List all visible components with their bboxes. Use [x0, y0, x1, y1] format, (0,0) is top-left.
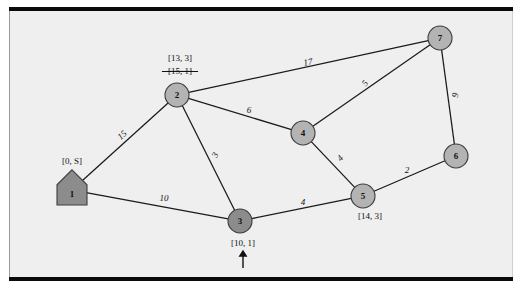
edge-weight-4-5: 4	[335, 153, 346, 163]
pointer-layer	[240, 251, 246, 268]
edge-4-5	[311, 142, 354, 188]
graph-canvas: 1234567 1510361754429 [0, S][13, 3][15, …	[0, 0, 522, 288]
edge-weight-1-3: 10	[160, 193, 170, 203]
node-annotations-layer: [0, S][13, 3][15, 1][10, 1][14, 3]	[62, 53, 382, 248]
pointer-arrowhead	[240, 251, 246, 256]
edge-weights-layer: 1510361754429	[115, 56, 460, 207]
node-5-distance-label: [14, 3]	[358, 211, 382, 221]
node-6-label: 6	[454, 151, 459, 161]
edge-2-3	[182, 106, 234, 211]
node-1-distance-label: [0, S]	[62, 156, 82, 166]
nodes-layer: 1234567	[57, 26, 468, 233]
edge-weight-4-7: 5	[360, 78, 371, 88]
edge-2-4	[188, 98, 291, 129]
edges-layer	[82, 41, 455, 219]
node-7-label: 7	[438, 33, 443, 43]
edge-weight-3-5: 4	[301, 197, 306, 207]
edge-4-7	[313, 45, 430, 126]
node-2-distance-label: [13, 3]	[168, 53, 192, 63]
edge-1-2	[82, 103, 168, 181]
node-5-label: 5	[361, 191, 366, 201]
node-2-label: 2	[175, 90, 180, 100]
edge-weight-2-7: 17	[303, 56, 314, 67]
edge-weight-2-3: 3	[209, 150, 221, 160]
node-4-label: 4	[301, 128, 306, 138]
figure-page: 1234567 1510361754429 [0, S][13, 3][15, …	[0, 0, 522, 288]
edge-5-6	[374, 161, 445, 192]
node-3-label: 3	[238, 216, 243, 226]
edge-weight-5-6: 2	[405, 165, 410, 175]
node-1-label: 1	[70, 189, 75, 199]
edge-weight-7-6: 9	[450, 92, 461, 98]
node-1-shape[interactable]	[57, 170, 87, 205]
edge-1-3	[85, 192, 228, 218]
edge-weight-2-4: 6	[247, 105, 252, 115]
node-3-distance-label: [10, 1]	[231, 238, 255, 248]
